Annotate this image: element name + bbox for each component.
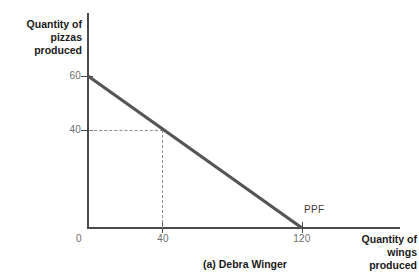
ppf-series-label: PPF <box>304 204 324 215</box>
x-axis-title: Quantity of wings produced <box>341 233 417 272</box>
ppf-chart: 60 40 0 40 120 PPF Quantity of pizzas pr… <box>0 0 419 276</box>
y-axis-title: Quantity of pizzas produced <box>4 18 82 57</box>
figure-caption: (a) Debra Winger <box>165 258 325 270</box>
